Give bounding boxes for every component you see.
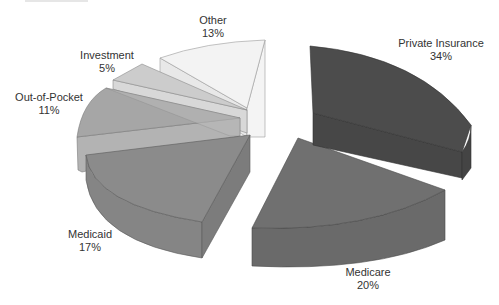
- label-medicare-pct: 20%: [345, 279, 390, 292]
- label-other-name: Other: [199, 14, 227, 27]
- label-other-pct: 13%: [199, 27, 227, 40]
- label-medicaid-pct: 17%: [68, 241, 112, 254]
- label-investment: Investment 5%: [80, 49, 134, 75]
- label-investment-pct: 5%: [80, 62, 134, 75]
- label-medicaid-name: Medicaid: [68, 228, 112, 241]
- label-medicare: Medicare 20%: [345, 266, 390, 292]
- label-out-of-pocket-pct: 11%: [15, 104, 83, 117]
- label-private-insurance-pct: 34%: [398, 50, 484, 63]
- label-other: Other 13%: [199, 14, 227, 40]
- label-medicaid: Medicaid 17%: [68, 228, 112, 254]
- label-out-of-pocket: Out-of-Pocket 11%: [15, 91, 83, 117]
- label-out-of-pocket-name: Out-of-Pocket: [15, 91, 83, 104]
- label-investment-name: Investment: [80, 49, 134, 62]
- label-private-insurance-name: Private Insurance: [398, 37, 484, 50]
- label-private-insurance: Private Insurance 34%: [398, 37, 484, 63]
- label-medicare-name: Medicare: [345, 266, 390, 279]
